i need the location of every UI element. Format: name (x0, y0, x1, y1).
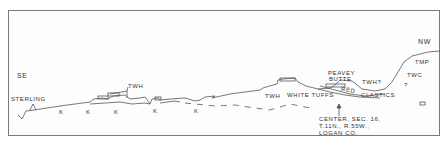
unit-twh-2: TWH (265, 93, 280, 100)
unit-k-2: K (86, 109, 91, 116)
label-clastics: CLASTICS (361, 92, 395, 99)
location-line-3: LOGAN CO. (319, 130, 358, 137)
label-white-tuffs: WHITE TUFFS (287, 92, 334, 99)
direction-se: SE (17, 72, 28, 79)
sterling-marker (30, 104, 36, 110)
unit-k-4: K (153, 108, 158, 115)
label-sterling: STERLING (11, 96, 46, 103)
label-butte: BUTTE (329, 76, 352, 83)
unit-k-3: K (114, 109, 119, 116)
unit-twh-q: TWH? (362, 79, 381, 86)
cross-section-drawing (0, 0, 448, 146)
unit-k-5: K (194, 108, 199, 115)
location-line-2: T.11N., R.55W., (319, 123, 370, 130)
unit-tmp: TMP (415, 59, 429, 66)
unit-query: ? (404, 82, 408, 89)
contact-line (90, 101, 180, 104)
unit-k-1: K (59, 109, 64, 116)
unit-twh-1: TWH (128, 83, 143, 90)
direction-nw: NW (418, 38, 431, 45)
unit-twc: TWC (407, 72, 422, 79)
location-line-1: CENTER, SEC. 16, (319, 116, 381, 123)
inferred-contact (185, 103, 310, 110)
